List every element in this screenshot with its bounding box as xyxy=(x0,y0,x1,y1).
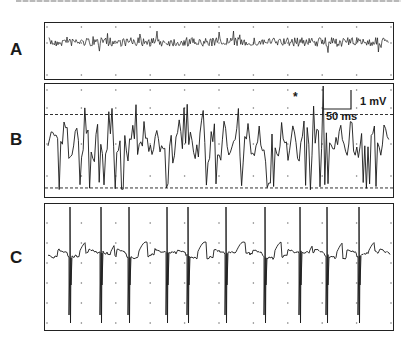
grid-dot xyxy=(184,262,186,264)
grid-dot xyxy=(46,89,48,91)
grid-dot xyxy=(184,282,186,284)
grid-dot xyxy=(321,322,323,324)
grid-dot xyxy=(390,42,392,44)
grid-dot xyxy=(287,322,289,324)
grid-dot xyxy=(149,322,151,324)
grid-dot xyxy=(253,222,255,224)
grid-dot xyxy=(321,302,323,304)
trace-a-plot xyxy=(45,23,393,79)
grid-dot xyxy=(356,322,358,324)
grid-dot xyxy=(253,26,255,28)
grid-dot xyxy=(287,262,289,264)
grid-dot xyxy=(390,262,392,264)
grid-dot xyxy=(81,242,83,244)
grid-dot xyxy=(115,302,117,304)
grid-dot xyxy=(253,242,255,244)
trace-b-plot xyxy=(45,84,393,197)
grid-dot xyxy=(149,89,151,91)
grid-dot xyxy=(287,89,289,91)
grid-dot xyxy=(115,89,117,91)
grid-dot xyxy=(356,242,358,244)
panel-label-c: C xyxy=(10,248,22,268)
grid-dot xyxy=(218,222,220,224)
grid-dot xyxy=(321,262,323,264)
grid-dot xyxy=(149,262,151,264)
grid-dot xyxy=(149,107,151,109)
grid-dot xyxy=(356,89,358,91)
grid-dot xyxy=(356,302,358,304)
grid-dot xyxy=(115,322,117,324)
grid-dot xyxy=(218,74,220,76)
grid-dot xyxy=(356,74,358,76)
grid-dot xyxy=(321,26,323,28)
grid-dot xyxy=(81,302,83,304)
grid-dot xyxy=(46,26,48,28)
grid-dot xyxy=(81,42,83,44)
grid-dot xyxy=(390,143,392,145)
grid-dot xyxy=(253,175,255,177)
grid-dot xyxy=(46,302,48,304)
grid-dot xyxy=(287,302,289,304)
grid-dot xyxy=(184,175,186,177)
grid-dot xyxy=(390,302,392,304)
grid-dot xyxy=(253,89,255,91)
clipped-caption-strip xyxy=(16,0,401,2)
grid-dot xyxy=(184,322,186,324)
grid-dot xyxy=(149,175,151,177)
grid-dot xyxy=(46,42,48,44)
signal-trace xyxy=(48,207,390,323)
scale-bar xyxy=(323,90,351,109)
grid-dot xyxy=(390,242,392,244)
grid-dot xyxy=(390,175,392,177)
grid-dot xyxy=(184,143,186,145)
grid-dot xyxy=(218,322,220,324)
grid-dot xyxy=(81,89,83,91)
panel-label-b: B xyxy=(10,130,22,150)
grid-dot xyxy=(218,42,220,44)
grid-dot xyxy=(149,26,151,28)
grid-dot xyxy=(390,74,392,76)
grid-dot xyxy=(46,74,48,76)
signal-trace xyxy=(49,31,388,53)
grid-dot xyxy=(218,26,220,28)
grid-dot xyxy=(149,222,151,224)
grid-dot xyxy=(356,222,358,224)
grid-dot xyxy=(115,143,117,145)
grid-dot xyxy=(184,302,186,304)
grid-dot xyxy=(184,242,186,244)
grid-dot xyxy=(287,175,289,177)
grid-dot xyxy=(390,26,392,28)
grid-dot xyxy=(46,262,48,264)
grid-dot xyxy=(46,242,48,244)
grid-dot xyxy=(81,282,83,284)
grid-dot xyxy=(184,222,186,224)
grid-dot xyxy=(81,222,83,224)
grid-dot xyxy=(287,26,289,28)
grid-dot xyxy=(356,262,358,264)
grid-dot xyxy=(81,107,83,109)
grid-dot xyxy=(149,242,151,244)
grid-dot xyxy=(390,222,392,224)
grid-dot xyxy=(321,282,323,284)
grid-dot xyxy=(46,107,48,109)
trace-c-plot xyxy=(45,204,393,330)
grid-dot xyxy=(115,282,117,284)
grid-dot xyxy=(356,282,358,284)
grid-dot xyxy=(184,26,186,28)
grid-dot xyxy=(46,282,48,284)
grid-dot xyxy=(46,175,48,177)
grid-dot xyxy=(321,175,323,177)
grid-dot xyxy=(115,262,117,264)
grid-dot xyxy=(149,143,151,145)
grid-dot xyxy=(253,74,255,76)
grid-dot xyxy=(356,175,358,177)
spike-asterisk-annotation: * xyxy=(293,90,298,104)
grid-dot xyxy=(356,26,358,28)
grid-dot xyxy=(184,74,186,76)
grid-dot xyxy=(218,89,220,91)
grid-dot xyxy=(218,143,220,145)
grid-dot xyxy=(218,302,220,304)
scale-bar-voltage-label: 1 mV xyxy=(360,95,386,107)
grid-dot xyxy=(218,282,220,284)
grid-dot xyxy=(115,107,117,109)
